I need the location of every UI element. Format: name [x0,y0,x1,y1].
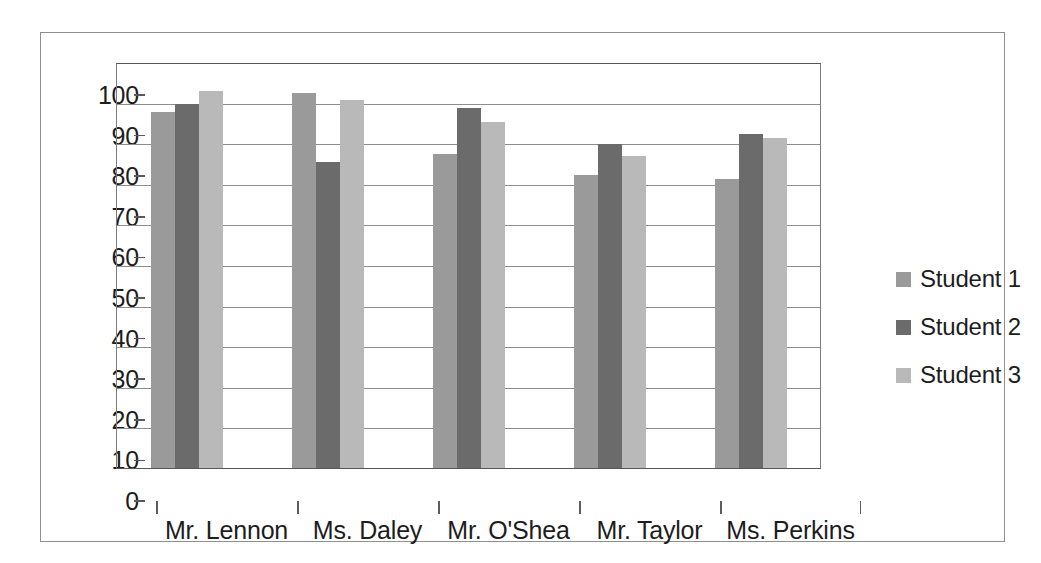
legend: Student 1Student 2Student 3 [896,255,1036,399]
bar[interactable] [457,108,481,469]
bar[interactable] [715,179,739,469]
bar[interactable] [292,93,316,469]
y-axis-tick-mark [134,500,145,502]
bar[interactable] [481,122,505,469]
bar[interactable] [340,100,364,469]
bar-group [539,63,680,469]
bar[interactable] [739,134,763,469]
x-axis-tick-label: Mr. Lennon [165,515,288,545]
legend-label: Student 2 [920,313,1021,341]
bar[interactable] [763,138,787,469]
bar[interactable] [175,104,199,469]
bar[interactable] [622,156,646,469]
legend-label: Student 1 [920,265,1021,293]
x-axis-tick-mark [156,501,158,514]
x-axis-tick-label: Ms. Perkins [726,515,854,545]
x-axis-tick-mark [860,501,862,514]
legend-entry[interactable]: Student 1 [896,255,1036,303]
x-axis-tick-mark [297,501,299,514]
bar[interactable] [316,162,340,469]
bar-group [680,63,821,469]
bar[interactable] [574,175,598,469]
plot-area [116,63,821,469]
legend-entry[interactable]: Student 3 [896,351,1036,399]
legend-swatch-icon [896,368,911,383]
x-axis-ticks [156,501,861,515]
legend-swatch-icon [896,320,911,335]
x-axis-tick-label: Mr. Taylor [597,515,703,545]
legend-entry[interactable]: Student 2 [896,303,1036,351]
bar-group [257,63,398,469]
legend-label: Student 3 [920,361,1021,389]
bar[interactable] [151,112,175,469]
x-axis-tick-label: Mr. O'Shea [447,515,569,545]
bar[interactable] [199,91,223,469]
bar[interactable] [598,144,622,469]
bar[interactable] [433,154,457,469]
x-axis-tick-mark [438,501,440,514]
y-axis-tick-label: 0 [75,489,139,514]
chart-frame: 0102030405060708090100 Mr. LennonMs. Dal… [40,32,1005,542]
x-axis-tick-label: Ms. Daley [313,515,422,545]
bar-group [116,63,257,469]
legend-swatch-icon [896,272,911,287]
x-axis-tick-mark [720,501,722,514]
x-axis-tick-mark [579,501,581,514]
bars-layer [116,63,821,469]
bar-group [398,63,539,469]
x-axis: Mr. LennonMs. DaleyMr. O'SheaMr. TaylorM… [156,515,861,549]
